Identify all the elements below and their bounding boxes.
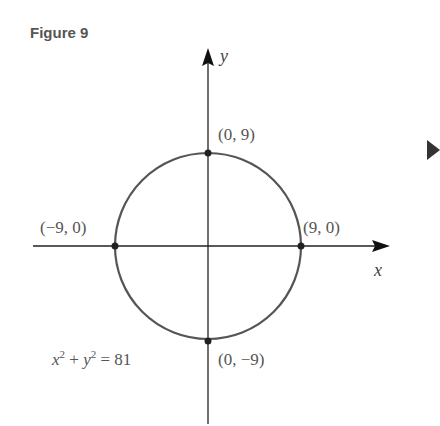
point-label-right: (9, 0) [303, 218, 340, 237]
equation-label: x2 + y2 = 81 [51, 348, 131, 369]
point-left [112, 243, 119, 250]
point-bottom [205, 338, 212, 345]
circle-graph: y x (0, 9) (−9, 0) (9, 0) (0, −9) x2 + y… [0, 0, 440, 426]
point-label-bottom: (0, −9) [218, 350, 264, 369]
point-right [298, 243, 305, 250]
x-axis [33, 240, 390, 252]
x-axis-label: x [373, 260, 382, 280]
y-axis-label: y [218, 46, 228, 66]
y-axis [202, 48, 214, 424]
point-top [205, 150, 212, 157]
point-label-top: (0, 9) [218, 125, 255, 144]
triangle-right-icon[interactable] [427, 140, 440, 160]
point-label-left: (−9, 0) [40, 218, 86, 237]
